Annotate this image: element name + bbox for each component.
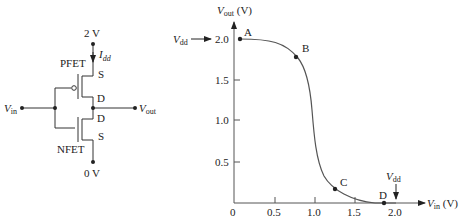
x-tick-0: 0 xyxy=(230,206,236,218)
y-tick-0-5: 0.5 xyxy=(215,156,229,168)
y-tick-1-0: 1.0 xyxy=(215,114,229,126)
point-d xyxy=(382,201,386,205)
pfet-channel xyxy=(82,70,93,108)
point-b xyxy=(294,55,298,59)
x-tick-0-5: 0.5 xyxy=(267,206,281,218)
x-tick-1-0: 1.0 xyxy=(307,206,321,218)
pfet-drain-label: D xyxy=(97,92,105,104)
x-axis-title: Vin (V) xyxy=(427,197,458,211)
vout-label: Vout xyxy=(139,102,157,116)
transfer-curve xyxy=(240,39,396,203)
ground-node xyxy=(91,160,95,164)
pfet-label: PFET xyxy=(60,57,86,69)
point-a xyxy=(238,37,242,41)
nfet-drain-label: D xyxy=(97,112,105,124)
pfet-source-label: S xyxy=(98,68,104,80)
output-node xyxy=(133,106,137,110)
x-tick-1-5: 1.5 xyxy=(347,206,361,218)
y-tick-2-0: 2.0 xyxy=(215,33,229,45)
idd-label: Idd xyxy=(98,48,112,63)
output-junction-node xyxy=(91,106,95,110)
point-a-label: A xyxy=(244,26,252,38)
ground-label: 0 V xyxy=(84,167,100,179)
axis-ticks xyxy=(234,80,355,203)
vdd-y-annotation: Vdd xyxy=(173,33,188,47)
gate-junction-node xyxy=(53,106,57,110)
x-tick-2-0: 2.0 xyxy=(388,206,402,218)
y-tick-1-5: 1.5 xyxy=(215,74,229,86)
supply-label: 2 V xyxy=(84,27,100,39)
point-c xyxy=(333,187,337,191)
point-b-label: B xyxy=(302,42,309,54)
point-c-label: C xyxy=(340,176,347,188)
pfet-gate-bubble-icon xyxy=(72,86,77,91)
cmos-inverter-figure: 2 V 0 V Idd PFET NFET S D D S Vin Vout 0… xyxy=(0,0,462,223)
supply-node xyxy=(91,42,95,46)
y-axis-title: Vout (V) xyxy=(217,4,252,18)
nfet-source-label: S xyxy=(98,130,104,142)
point-d-label: D xyxy=(379,189,387,201)
nfet-label: NFET xyxy=(57,143,85,155)
gate-wire xyxy=(55,88,75,128)
transfer-chart: 0 0.5 1.0 1.5 2.0 0.5 1.0 1.5 2.0 Vout (… xyxy=(173,4,458,218)
input-node xyxy=(20,106,24,110)
vin-label: Vin xyxy=(4,102,17,116)
vdd-x-annotation: Vdd xyxy=(386,170,401,184)
